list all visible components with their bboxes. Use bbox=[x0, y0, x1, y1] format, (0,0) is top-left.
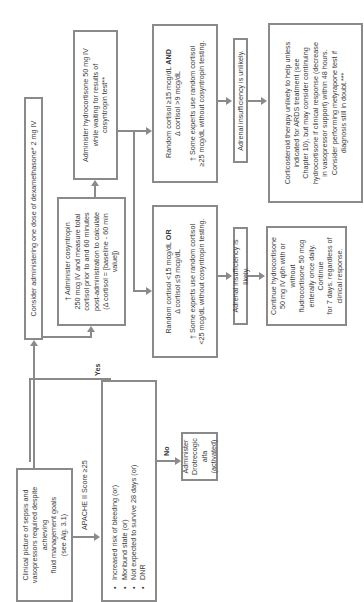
arrow-to-hydrocortisone bbox=[91, 180, 99, 186]
corticosteroid-line: Corticosteroid therapy unlikely to help … bbox=[283, 42, 292, 185]
corticosteroid-line: indicated for ARDS treatment (see bbox=[292, 58, 301, 167]
connector-to-cosyntropin-h bbox=[90, 332, 92, 338]
cosyntropin-line: (Δ cortisol = [baseline - 60 min value]) bbox=[101, 203, 120, 320]
or-keyword: OR bbox=[164, 229, 173, 240]
random-high-line-2: Δ cortisol >9 mcg/dL bbox=[173, 71, 182, 136]
connector-split-horizontal bbox=[133, 130, 135, 292]
hydrocortisone-line: Administer hydrocortisone 50 mg IV bbox=[81, 48, 90, 162]
random-low-note-2: <25 mcg/dL without cosyntropin testing. bbox=[197, 218, 206, 344]
continue-line: clinical response. bbox=[335, 248, 344, 303]
cosyntropin-line: post-administration to calculate bbox=[92, 212, 101, 311]
connector-split-right bbox=[133, 130, 146, 132]
connector-to-cosyntropin bbox=[43, 336, 91, 338]
adrenal-unlikely-box: Adrenal insufficiency is unlikely. bbox=[233, 38, 248, 163]
clinical-line-3: fluid management goals bbox=[49, 497, 58, 573]
arrow-to-unlikely bbox=[226, 97, 232, 105]
drotrecogin-line: Administer bbox=[181, 440, 190, 474]
dexamethasone-box: Consider administering one dose of dexam… bbox=[24, 97, 43, 340]
unlikely-text: Adrenal insufficiency is unlikely. bbox=[236, 50, 245, 150]
continue-hydrocortisone-box: Continue hydrocortisone 50 mg IV q6h wit… bbox=[266, 226, 347, 326]
continue-line: enterally once daily. Continue bbox=[307, 232, 326, 320]
criteria-item: DNR bbox=[138, 386, 147, 580]
cosyntropin-line: 250 mcg IV and measure total bbox=[73, 214, 82, 310]
cosyntropin-line: cortisol prior to and 60 minutes bbox=[82, 212, 91, 310]
drotrecogin-line: Drotrecogic alfa bbox=[190, 438, 209, 475]
random-high-line-1: Random cortisol ≥15 mcg/dL AND bbox=[164, 49, 173, 158]
continue-line: Continue hydrocortisone bbox=[269, 237, 278, 315]
flowchart-canvas: Clinical picture of sepsis and vasopress… bbox=[0, 0, 364, 602]
cosyntropin-line: † Administer cosyntropin bbox=[63, 222, 72, 300]
arrow-to-corticosteroid bbox=[261, 97, 267, 105]
random-low-note-1: † Some experts use random cortisol bbox=[188, 224, 197, 339]
continue-line: fludrocortisone 50 mcg bbox=[297, 240, 306, 313]
connector-unlikely-to-corticosteroid bbox=[248, 100, 261, 102]
random-low-line-2: Δ cortisol ≤9 mcg/dL bbox=[173, 249, 182, 314]
clinical-line-1: Clinical picture of sepsis and bbox=[21, 489, 30, 580]
corticosteroid-line: Consider performing metyrapone test if bbox=[330, 51, 339, 175]
arrow-to-dexamethasone bbox=[30, 340, 38, 346]
corticosteroid-line: in vasopressor support) within 48 hours. bbox=[320, 49, 329, 176]
clinical-line-2: vasopressors required despite achieving bbox=[30, 474, 49, 596]
corticosteroid-line: Chapter 10), but may consider continuing bbox=[301, 47, 310, 178]
continue-line: for 7 days, regardless of bbox=[325, 237, 334, 314]
arrow-to-continue bbox=[259, 272, 265, 280]
no-label: No bbox=[162, 446, 171, 456]
drotrecogin-box: Administer Drotrecogic alfa (activated) bbox=[181, 432, 218, 481]
random-high-text: Random cortisol ≥15 mcg/dL bbox=[164, 65, 173, 158]
adrenal-likely-box: Adrenal insufficiency is likely. bbox=[233, 227, 248, 325]
arrow-to-cosyntropin bbox=[87, 326, 95, 332]
apache-label: APACHE II Score ≥25 bbox=[80, 460, 89, 530]
random-low-line-1: Random cortisol <15 mcg/dL OR bbox=[164, 229, 173, 333]
corticosteroid-line: diagnosis still in doubt.*** bbox=[339, 73, 348, 154]
hydrocortisone-line: cosyntropin test** bbox=[100, 77, 109, 133]
criteria-item: Moribund state (or) bbox=[120, 386, 129, 580]
hydrocortisone-line: while waiting for results of bbox=[91, 64, 100, 146]
connector-apache bbox=[73, 536, 94, 538]
clinical-picture-box: Clinical picture of sepsis and vasopress… bbox=[16, 468, 73, 602]
criteria-item: Increased risk of bleeding (or) bbox=[110, 386, 119, 580]
connector-yes-horizontal bbox=[29, 378, 31, 462]
corticosteroid-line: hydrocortisone if clinical response (dec… bbox=[311, 42, 320, 184]
connector-to-hydrocortisone bbox=[94, 186, 96, 197]
arrow-to-criteria bbox=[94, 533, 100, 541]
criteria-box: Increased risk of bleeding (or) Moribund… bbox=[101, 380, 157, 602]
dexamethasone-text: Consider administering one dose of dexam… bbox=[29, 121, 38, 317]
connector-hydro-down bbox=[118, 130, 133, 132]
yes-label: Yes bbox=[93, 364, 102, 376]
connector-clinical-up bbox=[33, 346, 35, 468]
criteria-item: Not expected to survive 28 days (or) bbox=[129, 386, 138, 580]
continue-line: 50 mg IV q6h with or without bbox=[278, 232, 297, 320]
random-low-text: Random cortisol <15 mcg/dL bbox=[164, 240, 173, 333]
random-cortisol-low-box: Random cortisol <15 mcg/dL OR Δ cortisol… bbox=[152, 205, 218, 358]
and-keyword: AND bbox=[164, 49, 173, 65]
criteria-list: Increased risk of bleeding (or) Moribund… bbox=[110, 386, 148, 590]
connector-split-left bbox=[133, 290, 146, 292]
drotrecogin-line: (activated) bbox=[209, 440, 218, 474]
random-high-note-1: † Some experts use random cortisol bbox=[188, 46, 197, 161]
connector-yes-vertical bbox=[29, 378, 111, 380]
random-cortisol-high-box: Random cortisol ≥15 mcg/dL AND Δ cortiso… bbox=[152, 24, 218, 183]
random-high-note-2: ≥25 mcg/dL without cosyntropin testing. bbox=[197, 41, 206, 167]
clinical-line-4: (see Alg. 3.1) bbox=[59, 514, 68, 556]
hydrocortisone-box: Administer hydrocortisone 50 mg IV while… bbox=[73, 30, 118, 180]
cosyntropin-box: † Administer cosyntropin 250 mcg IV and … bbox=[57, 197, 126, 326]
corticosteroid-box: Corticosteroid therapy unlikely to help … bbox=[268, 23, 363, 203]
connector-no bbox=[157, 460, 175, 462]
